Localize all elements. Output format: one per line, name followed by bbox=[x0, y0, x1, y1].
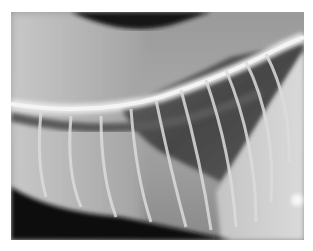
radiograph-image bbox=[11, 12, 304, 240]
bright-artifact bbox=[291, 194, 303, 206]
radiograph-drawing bbox=[11, 12, 304, 240]
